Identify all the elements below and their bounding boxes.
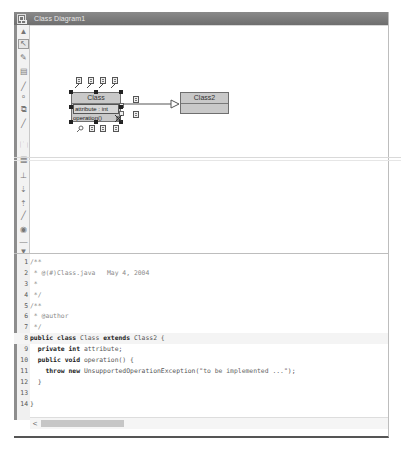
comment: */ <box>30 323 42 331</box>
code-line[interactable]: 2 * @(#)Class.java May 4, 2004 <box>14 268 388 279</box>
code-line[interactable]: 10 public void operation() { <box>14 355 388 366</box>
dash-icon: — <box>20 238 28 246</box>
add-association-icon[interactable] <box>100 125 106 132</box>
keyword: public class <box>30 334 80 342</box>
code-line[interactable]: 1/** <box>14 257 388 268</box>
string-literal: "to be implemented ..." <box>199 367 288 375</box>
line-number: 3 <box>14 279 30 290</box>
code-line[interactable]: 5/** <box>14 301 388 312</box>
realization-icon: ⇡ <box>20 200 27 208</box>
folder-icon: 🗀 <box>20 142 28 150</box>
tool-package-class[interactable]: ⧉ <box>18 105 29 115</box>
uml-class-Class2[interactable]: Class2 <box>180 92 229 114</box>
code-line[interactable]: 12 } <box>14 377 388 388</box>
code-line[interactable]: 3 * <box>14 279 388 290</box>
code-line[interactable]: 4 */ <box>14 290 388 301</box>
triangle-up-icon: ▲ <box>20 28 28 36</box>
code-line[interactable]: 13 <box>14 388 388 399</box>
tool-separator[interactable]: — <box>18 237 29 247</box>
line-number: 9 <box>14 344 30 355</box>
line-icon: ╱ <box>21 212 26 220</box>
code-token: Class <box>80 334 103 342</box>
inheritance-icon: ⊥ <box>20 172 27 180</box>
tool-association[interactable]: ╱ <box>18 119 29 129</box>
tool-scroll-up[interactable]: ▲ <box>18 27 29 37</box>
code-token: Class2 { <box>134 334 165 342</box>
comment: * <box>30 280 38 288</box>
horizontal-scrollbar[interactable]: < <box>30 417 388 429</box>
tool-line[interactable]: ╱ <box>18 82 29 92</box>
code-line[interactable]: 7 */ <box>14 322 388 333</box>
class-stack-icon: ⧉ <box>21 106 27 114</box>
resize-handle[interactable] <box>69 105 73 109</box>
tool-package[interactable]: 🗀 <box>18 141 29 151</box>
resize-handle[interactable] <box>94 90 98 94</box>
scroll-left-button[interactable]: < <box>30 418 40 429</box>
code-token: UnsupportedOperationException( <box>84 367 199 375</box>
divider <box>14 160 401 161</box>
move-icon[interactable] <box>114 114 123 123</box>
eraser-icon: ✎ <box>20 54 27 62</box>
connector-lines <box>70 81 130 89</box>
generalization-arrow[interactable] <box>123 99 183 109</box>
tool-note[interactable]: ✎ <box>18 53 29 63</box>
dependency-icon: ⇣ <box>20 186 27 194</box>
line-number: 13 <box>14 388 30 399</box>
line-number: 4 <box>14 290 30 301</box>
code-text[interactable]: 1/**2 * @(#)Class.java May 4, 20043 *4 *… <box>14 257 388 409</box>
add-dependency-icon[interactable] <box>89 125 95 132</box>
tool-realization[interactable]: ⇡ <box>18 199 29 209</box>
resize-handle[interactable] <box>94 120 98 124</box>
class-name[interactable]: Class2 <box>181 93 228 104</box>
keyword: extends <box>103 334 134 342</box>
code-line[interactable]: 8public class Class extends Class2 { <box>14 333 388 344</box>
line-number: 12 <box>14 377 30 388</box>
code-token: ); <box>288 367 296 375</box>
line-number: 7 <box>14 322 30 333</box>
scroll-thumb[interactable] <box>41 420 124 427</box>
tool-select[interactable]: ↖ <box>18 39 29 49</box>
note-link-icon[interactable] <box>76 125 84 133</box>
tool-class[interactable]: ▤ <box>18 67 29 77</box>
eye-icon: ◉ <box>20 226 27 234</box>
line-icon: ╱ <box>21 120 26 128</box>
keyword: public void <box>30 356 84 364</box>
title-bar[interactable]: Class Diagram1 <box>14 12 388 25</box>
resize-handle[interactable] <box>119 90 123 94</box>
resize-handle[interactable] <box>69 120 73 124</box>
class-diagram-window: Class Diagram1 ▲↖✎▤╱ᵒ⧉╱🗀▦⊥⇣⇡╱◉—▼ Class a… <box>14 12 389 438</box>
pointer-arrow-icon: ↖ <box>20 40 27 48</box>
tool-link[interactable]: ╱ <box>18 211 29 221</box>
tool-view[interactable]: ◉ <box>18 225 29 235</box>
diagram-canvas[interactable]: Class attribute : int operation() <box>30 25 388 254</box>
add-relation-icon[interactable] <box>133 111 139 118</box>
code-token: operation() { <box>84 356 134 364</box>
tool-dependency[interactable]: ⇣ <box>18 185 29 195</box>
window-title: Class Diagram1 <box>34 15 85 22</box>
tool-inheritance[interactable]: ⊥ <box>18 171 29 181</box>
line-number: 14 <box>14 399 30 410</box>
diagram-window-icon <box>17 14 26 24</box>
resize-handle[interactable] <box>69 90 73 94</box>
lollipop-icon: ᵒ <box>22 94 25 102</box>
line-number: 10 <box>14 355 30 366</box>
class-attribute[interactable]: attribute : int <box>73 104 119 114</box>
tool-interface[interactable]: ᵒ <box>18 93 29 103</box>
divider <box>14 157 401 158</box>
code-line[interactable]: 14} <box>14 399 388 410</box>
diagram-palette-toolbar: ▲↖✎▤╱ᵒ⧉╱🗀▦⊥⇣⇡╱◉—▼ <box>14 25 30 253</box>
code-line[interactable]: 9 private int attribute; <box>14 344 388 355</box>
line-number: 6 <box>14 311 30 322</box>
code-line[interactable]: 6 * @author <box>14 311 388 322</box>
code-editor[interactable]: 1/**2 * @(#)Class.java May 4, 20043 *4 *… <box>14 253 388 420</box>
code-line[interactable]: 11 throw new UnsupportedOperationExcepti… <box>14 366 388 377</box>
line-number: 5 <box>14 301 30 312</box>
line-number: 2 <box>14 268 30 279</box>
line-number: 8 <box>14 333 30 344</box>
line-number: 1 <box>14 257 30 268</box>
comment: /** <box>30 258 42 266</box>
class-name[interactable]: Class <box>72 93 120 104</box>
comment: * @author <box>30 312 68 320</box>
add-aggregation-icon[interactable] <box>113 125 119 132</box>
keyword: private int <box>30 345 84 353</box>
